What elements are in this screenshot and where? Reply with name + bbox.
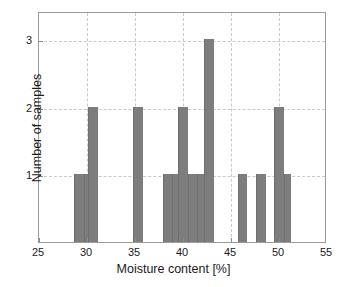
histogram-bar: [238, 174, 248, 242]
histogram-bar: [204, 39, 214, 242]
x-tick-mark: [183, 238, 184, 242]
histogram-bar: [88, 107, 98, 242]
x-tick-label: 45: [224, 246, 236, 258]
histogram-bar: [163, 174, 173, 242]
x-tick-label: 30: [80, 246, 92, 258]
x-tick-mark: [87, 238, 88, 242]
y-tick-label: 2: [26, 102, 32, 114]
x-tick-mark: [231, 238, 232, 242]
y-tick-label: 3: [26, 34, 32, 46]
histogram-bar: [274, 107, 284, 242]
histogram-bar: [74, 174, 84, 242]
y-axis-label-wrapper: Number of samples: [13, 12, 14, 243]
y-tick-mark: [39, 41, 43, 42]
x-tick-label: 50: [272, 246, 284, 258]
plot-area: [38, 12, 326, 243]
histogram-bar: [197, 174, 204, 242]
x-tick-label: 25: [32, 246, 44, 258]
histogram-bar: [133, 107, 143, 242]
chart-screenshot: Number of samples Moisture content [%] 2…: [0, 0, 347, 287]
x-tick-mark: [135, 238, 136, 242]
gridline-vertical: [231, 13, 232, 242]
histogram-bar: [178, 107, 188, 242]
histogram-bar: [284, 174, 291, 242]
x-tick-label: 35: [128, 246, 140, 258]
x-tick-label: 40: [176, 246, 188, 258]
histogram-bar: [188, 174, 198, 242]
y-tick-label: 1: [26, 169, 32, 181]
x-tick-label: 55: [320, 246, 332, 258]
x-tick-mark: [279, 238, 280, 242]
x-axis-label: Moisture content [%]: [0, 262, 347, 276]
x-tick-mark: [39, 238, 40, 242]
plot-inner: [39, 13, 325, 242]
y-axis-label: Number of samples: [30, 48, 44, 208]
gridline-horizontal: [39, 41, 325, 42]
histogram-bar: [256, 174, 266, 242]
